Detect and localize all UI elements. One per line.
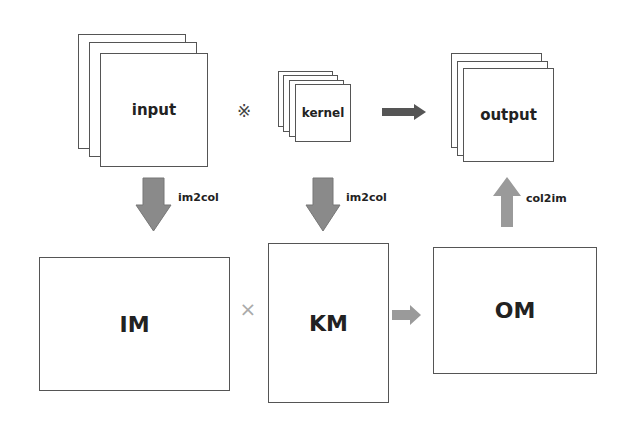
col2im-arrow-icon bbox=[493, 177, 521, 227]
im2col-label-kernel: im2col bbox=[346, 191, 387, 204]
im2col-arrow-input-icon bbox=[136, 178, 171, 231]
km-label: KM bbox=[309, 311, 348, 336]
im2col-label-input: im2col bbox=[178, 191, 219, 204]
km-matrix: KM bbox=[268, 243, 389, 403]
multiply-symbol: × bbox=[236, 297, 260, 321]
matmul-result-arrow-icon bbox=[392, 305, 421, 325]
im-matrix: IM bbox=[39, 257, 230, 391]
col2im-label: col2im bbox=[526, 192, 567, 205]
im-label: IM bbox=[119, 312, 149, 337]
im2col-arrow-kernel-icon bbox=[306, 178, 340, 231]
om-matrix: OM bbox=[433, 247, 597, 374]
om-label: OM bbox=[495, 298, 536, 323]
conv-result-arrow-icon bbox=[382, 104, 426, 120]
